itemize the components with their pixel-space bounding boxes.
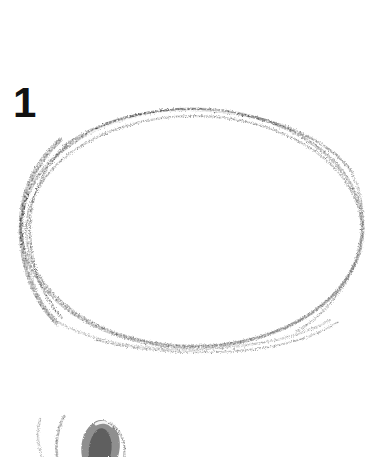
bottom-partial-sketch-group bbox=[38, 416, 125, 457]
ellipse-right-light-stroke bbox=[296, 174, 362, 332]
figure-plate: 1 bbox=[0, 0, 381, 457]
ellipse-stroke-group bbox=[21, 109, 363, 352]
figure-number-label: 1 bbox=[13, 80, 36, 126]
pencil-drawing-canvas bbox=[0, 0, 381, 457]
crescent-stroke-left bbox=[38, 419, 42, 457]
crescent-stroke-right bbox=[56, 416, 64, 457]
